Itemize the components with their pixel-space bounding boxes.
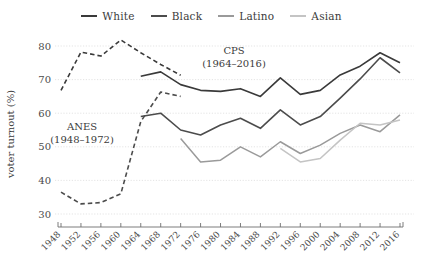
y-axis-label: voter turnout (%) [5, 90, 16, 179]
x-tick-label-1988: 1988 [239, 229, 262, 252]
series-line-black-anes [61, 92, 181, 204]
y-tick-label-80: 80 [38, 41, 51, 52]
x-tick-label-1980: 1980 [199, 229, 222, 252]
x-tick-label-2012: 2012 [358, 229, 381, 252]
x-tick-label-1964: 1964 [119, 229, 142, 252]
y-tick-label-30: 30 [38, 209, 51, 220]
x-tick-label-1996: 1996 [278, 229, 301, 252]
series-line-white-anes [61, 40, 181, 90]
y-tick-label-40: 40 [38, 175, 51, 186]
x-tick-label-1992: 1992 [258, 229, 281, 252]
x-tick-label-1956: 1956 [79, 229, 102, 252]
anes-label-line2: (1948–1972) [50, 134, 114, 145]
x-tick-label-2008: 2008 [338, 229, 361, 252]
x-tick-label-1972: 1972 [159, 229, 182, 252]
x-tick-label-1948: 1948 [39, 229, 62, 252]
x-tick-label-1952: 1952 [59, 229, 82, 252]
x-tick-label-1976: 1976 [179, 229, 202, 252]
x-tick-label-2016: 2016 [378, 229, 401, 252]
anes-label-line1: ANES [66, 121, 97, 132]
grid-layer [55, 46, 414, 214]
y-tick-label-60: 60 [38, 108, 51, 119]
x-tick-label-1984: 1984 [219, 229, 242, 252]
x-tick-label-1968: 1968 [139, 229, 162, 252]
x-tick-label-2000: 2000 [298, 229, 321, 252]
voter-turnout-chart: WhiteBlackLatinoAsian 194819521956196019… [0, 0, 423, 271]
plot-area: 1948195219561960196419681972197619801984… [0, 0, 423, 271]
y-tick-label-50: 50 [38, 141, 51, 152]
cps-label-line2: (1964–2016) [202, 58, 266, 69]
y-tick-label-70: 70 [38, 74, 51, 85]
x-tick-label-2004: 2004 [318, 229, 341, 252]
cps-label-line1: CPS [223, 45, 244, 56]
series-line-white-cps [141, 53, 400, 97]
x-tick-label-1960: 1960 [99, 229, 122, 252]
series-line-asian-cps [280, 120, 400, 162]
